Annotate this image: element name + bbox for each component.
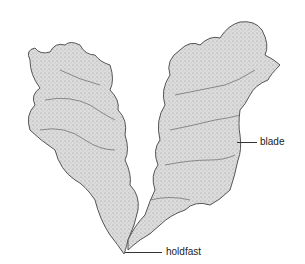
holdfast-leader-line xyxy=(125,252,162,253)
right-frond xyxy=(128,22,280,250)
blade-leader-line xyxy=(237,142,257,143)
holdfast-label: holdfast xyxy=(166,246,201,257)
blade-label: blade xyxy=(260,136,284,147)
seaweed-illustration xyxy=(0,0,305,264)
left-frond xyxy=(28,43,138,255)
